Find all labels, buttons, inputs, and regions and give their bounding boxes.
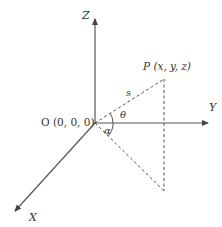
segment-s-label: s (126, 87, 131, 98)
origin-label: O (0, 0, 0) (41, 116, 95, 128)
point-p-label: P (x, y, z) (142, 60, 191, 72)
y-axis-label: Y (209, 101, 218, 114)
alpha-label: α (104, 125, 111, 136)
z-axis-label: Z (81, 9, 90, 22)
x-axis (15, 123, 95, 211)
theta-arc (110, 113, 113, 123)
x-axis-label: X (28, 211, 38, 224)
coordinate-diagram: Z Y X O (0, 0, 0) P (x, y, z) s θ α (0, 0, 222, 227)
theta-label: θ (120, 109, 126, 120)
segment-s (95, 79, 164, 123)
